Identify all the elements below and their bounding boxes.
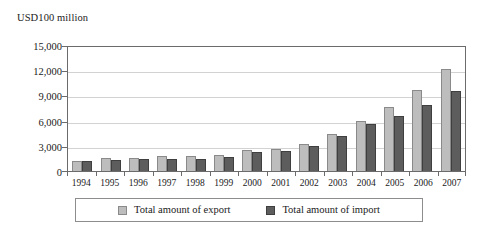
- y-axis-unit-label: USD100 million: [17, 12, 88, 24]
- bar-group: [408, 47, 436, 171]
- x-tick-label-2005: 2005: [381, 177, 410, 191]
- x-tick-mark: [295, 172, 296, 176]
- x-tick-label-1995: 1995: [96, 177, 125, 191]
- bar-group: [380, 47, 408, 171]
- bar-import-2003: [337, 136, 347, 171]
- bar-group: [295, 47, 323, 171]
- x-tick-label-2000: 2000: [238, 177, 267, 191]
- x-tick-mark: [381, 172, 382, 176]
- x-tick-label-1998: 1998: [181, 177, 210, 191]
- y-tick-label: 0: [8, 167, 62, 178]
- bar-import-1996: [139, 159, 149, 171]
- bar-export-1994: [72, 161, 82, 171]
- x-tick-mark: [181, 172, 182, 176]
- legend-label-export: Total amount of export: [134, 204, 230, 216]
- x-tick-label-1999: 1999: [210, 177, 239, 191]
- y-tick-label: 15,000: [8, 41, 62, 52]
- x-tick-mark: [465, 172, 466, 176]
- bar-import-2004: [366, 124, 376, 171]
- bar-export-2005: [384, 107, 394, 171]
- x-tick-label-2006: 2006: [409, 177, 438, 191]
- bar-import-2001: [281, 151, 291, 171]
- bar-export-2000: [242, 150, 252, 171]
- bar-group: [437, 47, 465, 171]
- bar-group: [267, 47, 295, 171]
- bar-series-container: [68, 47, 465, 171]
- bar-export-1996: [129, 158, 139, 171]
- bar-group: [352, 47, 380, 171]
- plot-area: [67, 46, 466, 172]
- bar-import-2000: [252, 152, 262, 171]
- bar-import-1995: [111, 160, 121, 171]
- x-tick-label-2002: 2002: [295, 177, 324, 191]
- x-tick-label-1996: 1996: [124, 177, 153, 191]
- bar-import-2006: [422, 105, 432, 171]
- bar-import-1999: [224, 157, 234, 171]
- bar-export-1995: [101, 158, 111, 171]
- x-tick-label-2003: 2003: [324, 177, 353, 191]
- bar-chart-figure: USD100 million 15,000 12,000 9,000 6,000…: [0, 0, 481, 234]
- bar-import-2007: [451, 91, 461, 171]
- bar-group: [68, 47, 96, 171]
- x-tick-mark: [96, 172, 97, 176]
- bar-import-1998: [196, 159, 206, 171]
- legend-swatch-export-icon: [118, 206, 127, 215]
- y-tick-label: 12,000: [8, 66, 62, 77]
- bar-group: [153, 47, 181, 171]
- bar-group: [181, 47, 209, 171]
- x-tick-label-1997: 1997: [153, 177, 182, 191]
- y-tick-label: 9,000: [8, 91, 62, 102]
- bar-export-2007: [441, 69, 451, 171]
- y-axis-tick-labels: 15,000 12,000 9,000 6,000 3,000 0: [6, 46, 62, 172]
- bar-import-2005: [394, 116, 404, 171]
- bar-export-2006: [412, 90, 422, 171]
- x-tick-mark: [409, 172, 410, 176]
- y-tick-label: 3,000: [8, 141, 62, 152]
- bar-export-1998: [186, 156, 196, 171]
- bar-export-2002: [299, 144, 309, 171]
- bar-group: [323, 47, 351, 171]
- x-tick-label-2001: 2001: [267, 177, 296, 191]
- x-axis-tick-labels: 1994199519961997199819992000200120022003…: [67, 177, 466, 191]
- bar-export-2001: [271, 149, 281, 171]
- bar-export-1999: [214, 155, 224, 171]
- x-tick-mark: [324, 172, 325, 176]
- x-tick-mark: [153, 172, 154, 176]
- legend-item-export: Total amount of export: [118, 204, 230, 216]
- x-tick-mark: [438, 172, 439, 176]
- bar-group: [238, 47, 266, 171]
- bar-export-2004: [356, 121, 366, 171]
- x-tick-mark: [267, 172, 268, 176]
- legend-swatch-import-icon: [266, 206, 275, 215]
- x-tick-mark: [352, 172, 353, 176]
- bar-group: [125, 47, 153, 171]
- bar-export-1997: [157, 156, 167, 171]
- y-tick-label: 6,000: [8, 116, 62, 127]
- legend-label-import: Total amount of import: [282, 204, 380, 216]
- bar-import-1994: [82, 161, 92, 171]
- x-tick-mark: [67, 172, 68, 176]
- bar-group: [96, 47, 124, 171]
- x-tick-label-1994: 1994: [67, 177, 96, 191]
- bar-group: [210, 47, 238, 171]
- bar-export-2003: [327, 134, 337, 171]
- bar-import-2002: [309, 146, 319, 171]
- legend-item-import: Total amount of import: [266, 204, 380, 216]
- x-tick-mark: [238, 172, 239, 176]
- x-tick-mark: [210, 172, 211, 176]
- chart-legend: Total amount of export Total amount of i…: [75, 198, 423, 222]
- x-tick-label-2007: 2007: [438, 177, 467, 191]
- x-tick-label-2004: 2004: [352, 177, 381, 191]
- x-tick-mark: [124, 172, 125, 176]
- bar-import-1997: [167, 159, 177, 171]
